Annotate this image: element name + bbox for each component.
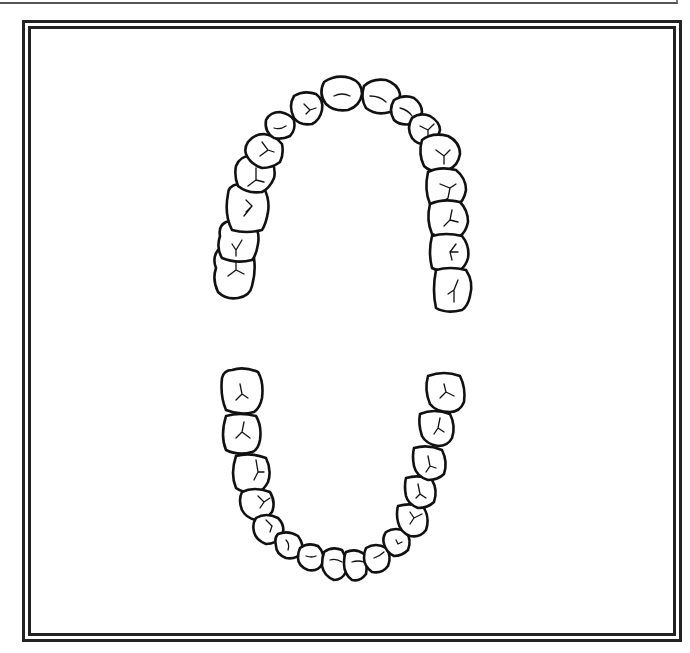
lower-arch (222, 368, 465, 580)
upper-tooth (266, 112, 295, 139)
lower-tooth (223, 414, 261, 454)
upper-tooth (428, 200, 468, 237)
lower-tooth (419, 411, 453, 446)
lower-tooth (233, 454, 270, 492)
upper-tooth (434, 268, 471, 312)
upper-arch (214, 77, 471, 312)
upper-tooth (430, 234, 468, 272)
upper-tooth (291, 92, 322, 124)
dental-arch-diagram (0, 0, 690, 653)
